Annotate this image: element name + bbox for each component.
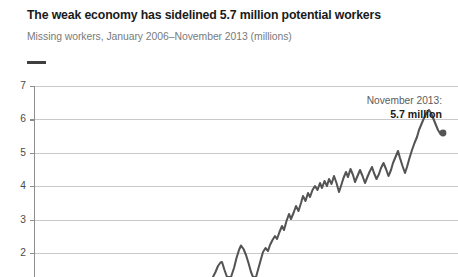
line-chart-svg (0, 0, 458, 277)
y-axis (30, 86, 35, 277)
y-tick-label-3: 3 (4, 215, 26, 225)
chart-figure: The weak economy has sidelined 5.7 milli… (0, 0, 458, 277)
y-tick-label-2: 2 (4, 248, 26, 258)
end-point-marker (440, 130, 447, 137)
endpoint-annotation-date: November 2013: (367, 95, 442, 108)
y-tick-label-6: 6 (4, 114, 26, 124)
plot-area: 7 6 5 4 3 2 November 2013: 5.7 million (0, 0, 458, 277)
data-series-missing-workers (213, 110, 446, 277)
y-tick-label-5: 5 (4, 148, 26, 158)
endpoint-annotation-value: 5.7 million (367, 108, 442, 121)
series-line (213, 110, 443, 277)
y-tick-label-4: 4 (4, 181, 26, 191)
endpoint-annotation: November 2013: 5.7 million (367, 95, 442, 120)
y-tick-label-7: 7 (4, 81, 26, 91)
